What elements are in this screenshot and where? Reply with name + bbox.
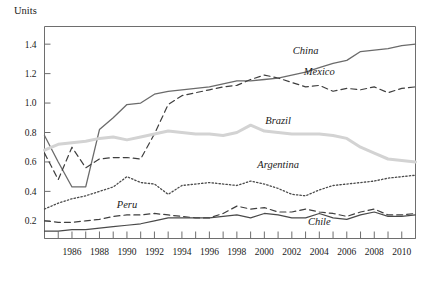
x-tick-label: 2002 — [282, 247, 301, 257]
series-label-china: China — [293, 45, 319, 56]
series-line-chile — [45, 212, 416, 231]
line-chart: Units 0.20.40.60.81.01.21.4 198619881990… — [0, 0, 431, 282]
y-tick-label: 0.6 — [25, 157, 37, 167]
series-label-chile: Chile — [308, 216, 331, 227]
y-tick-label: 0.8 — [25, 128, 37, 138]
x-tick-label: 2010 — [392, 247, 411, 257]
series-line-peru — [45, 206, 416, 222]
y-tick-label: 0.2 — [25, 216, 37, 226]
series-label-argentina: Argentina — [256, 159, 299, 170]
series-line-mexico — [45, 75, 416, 180]
x-tick-label: 2008 — [365, 247, 384, 257]
series-line-brazil — [45, 125, 416, 162]
x-tick-label: 1990 — [117, 247, 136, 257]
x-tick-label: 1994 — [172, 247, 191, 257]
series-line-china — [45, 44, 416, 187]
series-label-mexico: Mexico — [303, 66, 335, 77]
x-axis-ticks: 1986198819901992199419961998200020022004… — [45, 232, 416, 257]
x-tick-label: 1996 — [200, 247, 219, 257]
x-tick-label: 2000 — [255, 247, 274, 257]
x-tick-label: 1992 — [145, 247, 164, 257]
chart-container: Units 0.20.40.60.81.01.21.4 198619881990… — [0, 0, 431, 282]
series-lines — [45, 44, 416, 231]
y-axis-ticks: 0.20.40.60.81.01.21.4 — [25, 40, 51, 227]
series-label-peru: Peru — [116, 199, 137, 210]
y-tick-label: 1.0 — [25, 98, 37, 108]
series-line-argentina — [45, 175, 416, 209]
x-tick-label: 2006 — [337, 247, 356, 257]
x-tick-label: 2004 — [310, 247, 329, 257]
y-tick-label: 1.4 — [25, 40, 37, 50]
x-tick-label: 1986 — [62, 247, 81, 257]
y-tick-label: 0.4 — [25, 187, 37, 197]
y-tick-label: 1.2 — [25, 69, 37, 79]
series-label-brazil: Brazil — [265, 115, 291, 126]
x-tick-label: 1988 — [90, 247, 109, 257]
y-axis-title: Units — [14, 5, 37, 16]
x-tick-label: 1998 — [227, 247, 246, 257]
